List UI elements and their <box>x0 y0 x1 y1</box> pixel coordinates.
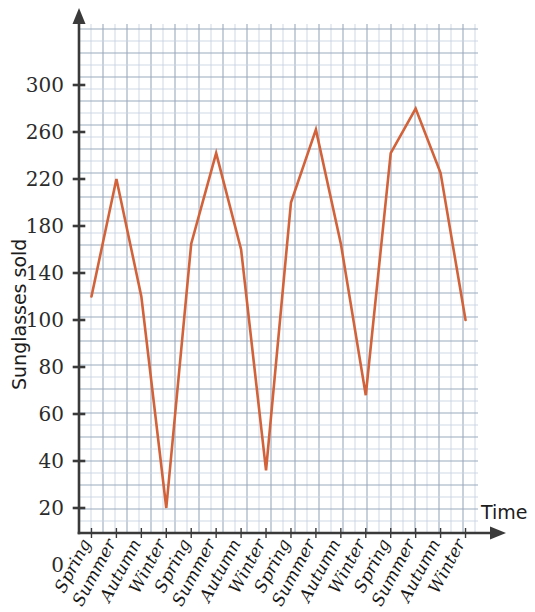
y-axis-tick-label-180: 180 <box>26 214 64 238</box>
y-axis-tick-label-60: 60 <box>39 402 64 426</box>
y-axis-title: Sunglasses sold <box>8 239 30 390</box>
y-axis-tick-label-220: 220 <box>26 167 64 191</box>
y-axis-tick-label-260: 260 <box>26 120 64 144</box>
line-chart: 20406080100140180220260300 0 Sunglasses … <box>0 0 535 612</box>
x-axis-title: Time <box>480 501 528 523</box>
y-axis-tick-label-140: 140 <box>26 261 64 285</box>
y-axis-tick-label-300: 300 <box>26 73 64 97</box>
y-axis-tick-label-40: 40 <box>39 449 64 473</box>
y-axis-tick-label-100: 100 <box>26 308 64 332</box>
y-axis-arrowhead <box>73 8 86 24</box>
chart-gridlines-minor <box>79 24 478 533</box>
x-axis-arrowhead <box>490 527 506 540</box>
chart-canvas: 20406080100140180220260300 0 Sunglasses … <box>0 0 535 612</box>
y-axis-tick-labels: 20406080100140180220260300 <box>26 73 64 520</box>
x-axis-category-labels: SpringSummerAutumnWinterSpringSummerAutu… <box>50 528 469 609</box>
y-axis-tick-label-20: 20 <box>39 496 64 520</box>
y-axis-tick-label-80: 80 <box>39 355 64 379</box>
sunglasses-sold-series <box>91 109 465 509</box>
